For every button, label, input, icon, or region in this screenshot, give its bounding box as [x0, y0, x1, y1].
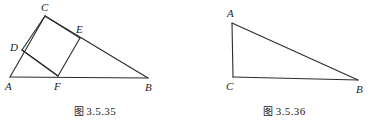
diagonal-DF-to-B [22, 50, 58, 76]
figure-3-5-35: A B C D E F 图3.5.35 [0, 0, 190, 126]
side-AB [232, 23, 358, 80]
caption-number-label: 3.5.36 [276, 105, 306, 117]
figure-caption-3-5-35: 图3.5.35 [0, 103, 190, 118]
vertex-label-F: F [54, 81, 61, 92]
square-side-CE [45, 16, 80, 38]
vertex-label-B: B [356, 84, 363, 95]
caption-prefix-label: 图 [263, 106, 273, 117]
vertex-label-C: C [41, 2, 48, 13]
figure-3-5-35-drawing [0, 0, 190, 100]
vertex-label-C: C [226, 81, 233, 92]
vertex-label-A: A [227, 8, 234, 19]
caption-prefix-label: 图 [74, 106, 84, 117]
side-AB [10, 77, 148, 78]
vertex-label-D: D [10, 42, 18, 53]
vertex-label-E: E [76, 24, 83, 35]
vertex-label-A: A [5, 81, 12, 92]
figure-3-5-36-drawing [190, 0, 379, 100]
side-AC [232, 23, 233, 77]
figure-caption-3-5-36: 图3.5.36 [190, 103, 379, 118]
vertex-label-B: B [145, 82, 152, 93]
caption-number-label: 3.5.35 [86, 105, 116, 117]
figure-page: A B C D E F 图3.5.35 A C B 图3.5.36 [0, 0, 379, 126]
figure-3-5-36: A C B 图3.5.36 [190, 0, 379, 126]
square-side-EF [58, 38, 80, 76]
square-side-DC [22, 16, 45, 50]
side-CB [233, 77, 358, 80]
